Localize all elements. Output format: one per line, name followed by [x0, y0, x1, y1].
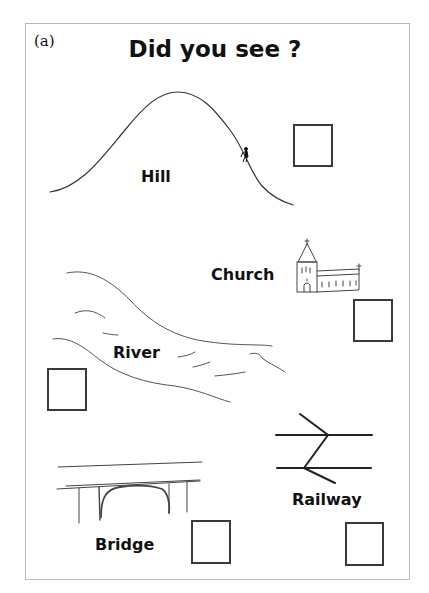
panel-label: (a) [34, 34, 55, 49]
label-hill: Hill [141, 169, 171, 185]
label-bridge: Bridge [95, 537, 154, 553]
hill-icon [50, 92, 293, 205]
checkbox-river[interactable] [47, 368, 87, 411]
checkbox-church[interactable] [353, 299, 393, 342]
page-title: Did you see ? [124, 38, 306, 61]
sketch-canvas [0, 0, 429, 593]
river-icon [53, 272, 285, 402]
church-icon [297, 239, 361, 292]
checkbox-bridge[interactable] [191, 520, 231, 564]
railway-icon [276, 414, 372, 483]
bridge-icon [57, 462, 202, 523]
checkbox-railway[interactable] [345, 522, 384, 566]
checkbox-hill[interactable] [293, 124, 333, 167]
label-river: River [113, 345, 160, 361]
label-church: Church [211, 267, 274, 283]
label-railway: Railway [292, 492, 362, 508]
